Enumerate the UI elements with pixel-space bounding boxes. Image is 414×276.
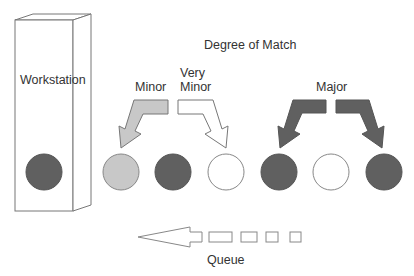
workstation-label: Workstation xyxy=(20,73,86,87)
workstation-job-circle xyxy=(26,154,62,190)
queue-circles xyxy=(103,154,402,190)
queue-slot xyxy=(266,232,278,242)
queue-job-circle-empty xyxy=(208,154,244,190)
diagram-title: Degree of Match xyxy=(204,38,296,52)
queue-direction-arrow xyxy=(138,227,202,247)
minor-arrow xyxy=(119,100,168,148)
queue-slot xyxy=(290,232,301,242)
workstation-side-face xyxy=(73,14,91,211)
major-label: Major xyxy=(316,80,347,94)
queue-job-circle-empty xyxy=(313,154,349,190)
queue-job-circle-dark xyxy=(155,154,191,190)
very-label: Very xyxy=(180,66,205,80)
queue-job-circle-dark xyxy=(261,154,297,190)
major-arrow-left xyxy=(278,100,326,148)
minor2-label: Minor xyxy=(180,80,211,94)
minor-label: Minor xyxy=(135,80,166,94)
queue-slot xyxy=(241,232,257,242)
queue-slot xyxy=(209,232,232,242)
very-minor-arrow xyxy=(178,100,228,148)
queue-label: Queue xyxy=(207,253,245,267)
queue-job-circle-dark xyxy=(366,154,402,190)
queue-job-circle-light xyxy=(103,154,139,190)
major-arrow-right xyxy=(336,100,384,148)
